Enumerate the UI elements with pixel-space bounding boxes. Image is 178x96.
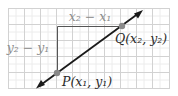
point-p-label: P(x₁, y₁) [61,74,112,89]
slope-diagram: x₂ − x₁ y₂ − y₁ Q(x₂, y₂) P(x₁, y₁) [0,0,178,96]
point-q-marker [119,23,125,29]
rise-label: y₂ − y₁ [6,40,50,55]
point-p-marker [54,70,60,76]
point-q-label: Q(x₂, y₂) [115,31,167,46]
run-label: x₂ − x₁ [69,9,112,24]
